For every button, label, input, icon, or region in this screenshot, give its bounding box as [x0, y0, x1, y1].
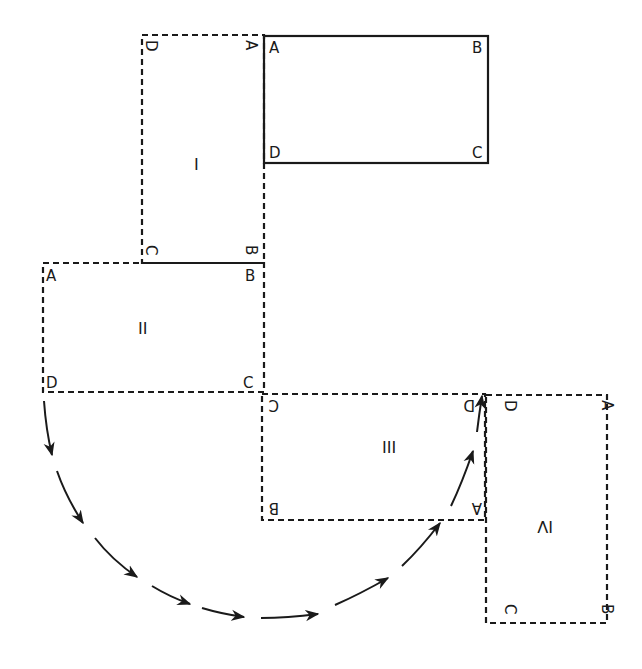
position-iv-corner-a: A	[598, 400, 616, 411]
position-ii: A B D C II	[43, 263, 264, 392]
arrow-1	[44, 401, 52, 455]
position-iv-corner-d: D	[501, 400, 519, 412]
original-rectangle-outline	[264, 36, 488, 163]
rolling-rectangle-diagram: A B C D D A C B I A B D C II C D B A III…	[0, 0, 642, 669]
position-i-label: I	[194, 155, 199, 174]
position-i-corner-b: B	[242, 245, 260, 255]
arrow-6	[261, 614, 318, 618]
position-ii-corner-a: A	[46, 267, 57, 285]
arrow-4	[152, 586, 190, 604]
arrow-8	[402, 523, 440, 566]
position-ii-label: II	[138, 319, 147, 338]
position-i-corner-a: A	[242, 40, 260, 51]
position-ii-corner-b: B	[245, 267, 255, 285]
position-iv-corner-c: C	[501, 604, 519, 614]
position-iii-outline	[262, 394, 485, 520]
arrow-3	[95, 538, 137, 577]
position-i-corner-d: D	[142, 40, 160, 52]
arrow-9	[451, 451, 473, 506]
position-ii-outline	[43, 263, 264, 392]
position-i: D A C B I	[142, 35, 264, 263]
original-corner-c: C	[472, 144, 482, 162]
position-iv: D A C B IV	[486, 395, 616, 623]
arrow-10	[477, 396, 482, 432]
position-iii-corner-b: B	[269, 499, 279, 517]
position-iii-corner-c: C	[269, 396, 279, 414]
original-corner-a: A	[269, 39, 280, 57]
position-iii-corner-d: D	[463, 396, 475, 414]
position-i-corner-c: C	[142, 245, 160, 255]
position-iii-label: III	[382, 438, 396, 457]
position-iii: C D B A III	[262, 394, 485, 520]
original-corner-d: D	[269, 144, 281, 162]
arrow-5	[202, 608, 244, 617]
position-i-outline	[142, 35, 264, 263]
position-iv-corner-b: B	[598, 604, 616, 614]
original-rectangle: A B C D	[264, 36, 488, 163]
position-iv-label: IV	[537, 517, 553, 536]
position-iii-corner-a: A	[471, 499, 482, 517]
arrow-2	[57, 471, 83, 523]
position-ii-corner-c: C	[243, 374, 253, 392]
position-ii-corner-d: D	[46, 374, 58, 392]
position-iv-outline	[486, 395, 607, 623]
arrow-7	[335, 578, 388, 605]
original-corner-b: B	[472, 39, 482, 57]
